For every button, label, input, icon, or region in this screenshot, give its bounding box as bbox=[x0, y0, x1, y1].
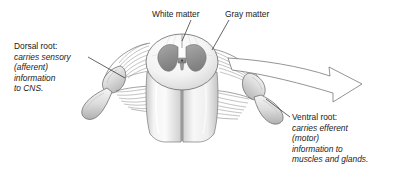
dorsal-root-line-1: carries sensory bbox=[14, 52, 71, 63]
ventral-root-line-2: (motor) bbox=[292, 133, 368, 144]
central-canal bbox=[181, 59, 183, 61]
gray-matter-label: Gray matter bbox=[225, 9, 269, 19]
dorsal-root-line-2: (afferent) bbox=[14, 62, 71, 73]
white-matter-label: White matter bbox=[152, 9, 199, 19]
right-spinal-nerve-trunk bbox=[254, 95, 283, 124]
ventral-root-heading: Ventral root: bbox=[292, 112, 368, 123]
spinal-cord-illustration bbox=[0, 0, 401, 196]
ventral-root-line-1: carries efferent bbox=[292, 123, 368, 134]
ventral-root-line-4: muscles and glands. bbox=[292, 154, 368, 165]
leader-gray-matter bbox=[212, 20, 229, 50]
ventral-root-callout: Ventral root: carries efferent (motor) i… bbox=[292, 112, 368, 165]
left-spinal-nerve-trunk bbox=[82, 88, 112, 119]
dorsal-root-heading: Dorsal root: bbox=[14, 41, 71, 52]
dorsal-root-line-3: information bbox=[14, 73, 71, 84]
ventral-root-line-3: information to bbox=[292, 144, 368, 155]
dorsal-root-line-4: to CNS. bbox=[14, 83, 71, 94]
figure-canvas: White matter Gray matter Dorsal root: ca… bbox=[0, 0, 401, 196]
cord-cut-face bbox=[146, 34, 218, 90]
dorsal-root-callout: Dorsal root: carries sensory (afferent) … bbox=[14, 41, 71, 94]
